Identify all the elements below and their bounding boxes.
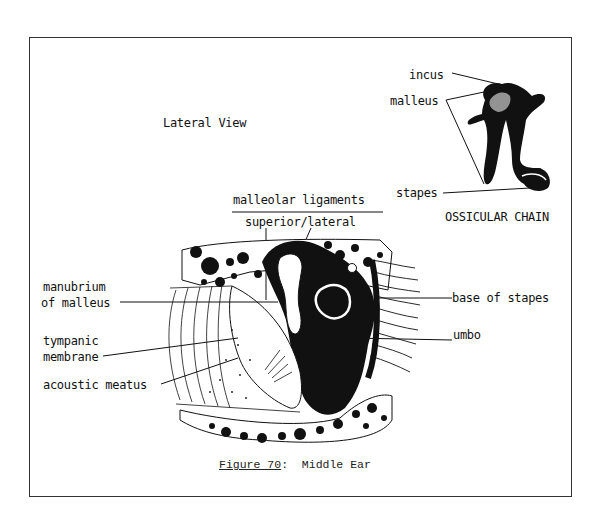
base-of-stapes-label: base of stapes	[452, 291, 549, 305]
ossicular-chain-drawing	[443, 73, 550, 193]
figure-caption: Figure 70: Middle Ear	[219, 458, 371, 471]
ossicular-chain-label: OSSICULAR CHAIN	[445, 210, 549, 224]
superior-lateral-label: superior/lateral	[245, 215, 356, 229]
manubrium-label-line2: of malleus	[41, 296, 110, 310]
malleus-label: malleus	[390, 94, 438, 108]
manubrium-label-line1: manubrium	[43, 280, 105, 294]
malleolar-ligaments-label: malleolar ligaments	[233, 193, 365, 207]
stapes-label: stapes	[396, 186, 438, 200]
ear-cross-section	[169, 239, 420, 443]
tympanic-label-line1: tympanic	[43, 334, 98, 348]
incus-label: incus	[409, 68, 444, 82]
acoustic-meatus-label: acoustic meatus	[43, 378, 147, 392]
umbo-label: umbo	[453, 328, 481, 342]
figure-number: Figure 70	[219, 458, 281, 471]
figure-title: Middle Ear	[302, 458, 371, 471]
caption-separator: :	[281, 458, 302, 471]
lateral-view-label: Lateral View	[163, 116, 246, 130]
tympanic-label-line2: membrane	[43, 350, 98, 364]
middle-ear-illustration	[0, 0, 602, 523]
